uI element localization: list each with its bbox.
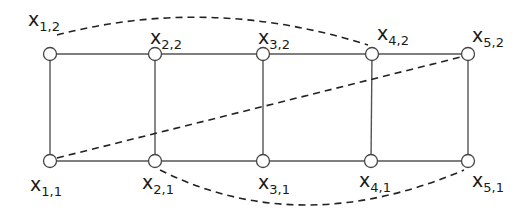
node-x21 [149, 155, 162, 168]
node-x22 [149, 48, 162, 61]
label-x51: x5,1 [472, 169, 504, 195]
label-x31: x3,1 [258, 171, 290, 197]
node-x12 [44, 48, 57, 61]
dashed-edge-x11-x52 [57, 57, 461, 158]
label-x12: x1,2 [28, 8, 60, 34]
node-x52 [462, 48, 475, 61]
label-x42: x4,2 [377, 22, 409, 48]
dashed-edge-x21-x51 [160, 170, 464, 205]
graph-diagram: x1,2x2,2x3,2x4,2x5,2x1,1x2,1x3,1x4,1x5,1 [0, 0, 531, 219]
node-x32 [257, 48, 270, 61]
node-labels: x1,2x2,2x3,2x4,2x5,2x1,1x2,1x3,1x4,1x5,1 [28, 8, 504, 199]
node-x11 [44, 155, 57, 168]
label-x21: x2,1 [142, 171, 174, 197]
node-x41 [365, 155, 378, 168]
dashed-edge-x12-x42 [57, 17, 368, 45]
node-x42 [366, 48, 379, 61]
label-x41: x4,1 [359, 169, 391, 195]
label-x11: x1,1 [30, 173, 62, 199]
node-x51 [462, 155, 475, 168]
label-x52: x5,2 [472, 24, 504, 50]
edge-x42-x41 [371, 54, 372, 161]
node-x31 [257, 155, 270, 168]
